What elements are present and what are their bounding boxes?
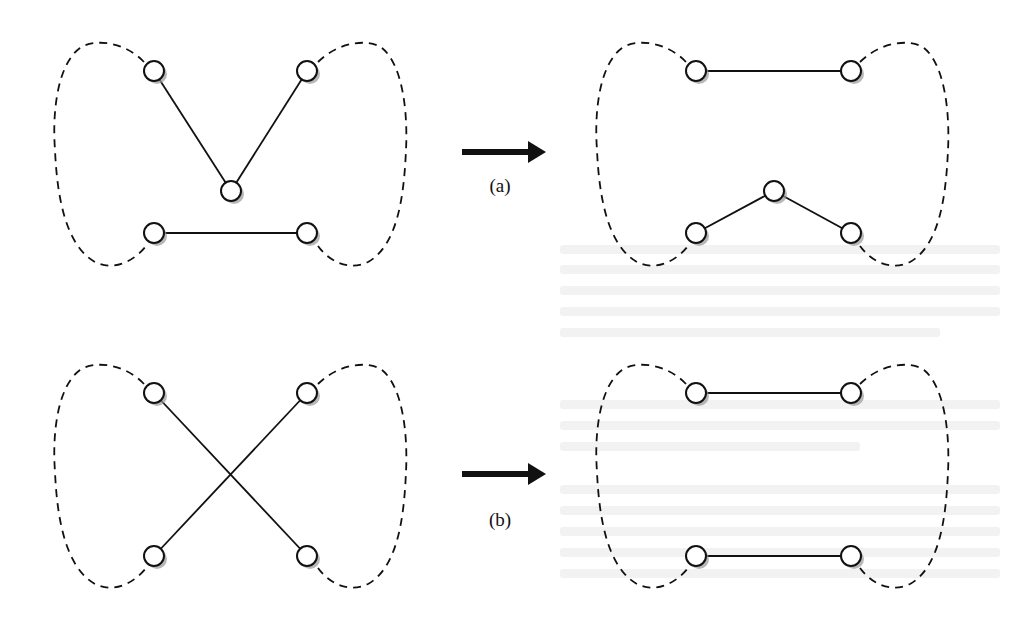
node-a-before-1: [297, 61, 317, 81]
node-a-after-3: [686, 223, 706, 243]
node-a-after-2: [764, 181, 784, 201]
graph-edges: [154, 71, 851, 556]
arrowhead-icon-a: [528, 141, 546, 163]
node-b-after-3: [841, 546, 861, 566]
node-a-before-4: [297, 223, 317, 243]
node-a-after-1: [841, 61, 861, 81]
dashed-region-a-after: [596, 43, 948, 266]
arrowhead-icon-b: [528, 463, 546, 485]
dashed-region-b-before: [54, 365, 406, 588]
graph-nodes: [144, 61, 864, 569]
node-a-before-2: [221, 181, 241, 201]
node-b-after-2: [686, 546, 706, 566]
node-a-after-0: [686, 61, 706, 81]
node-a-before-3: [144, 223, 164, 243]
panel-label-b: (b): [489, 509, 511, 531]
edge-a-before-0: [154, 71, 231, 191]
dashed-region-b-after: [596, 365, 948, 588]
node-b-before-1: [297, 383, 317, 403]
node-b-after-0: [686, 383, 706, 403]
node-b-before-3: [297, 546, 317, 566]
node-a-after-4: [841, 223, 861, 243]
node-a-before-0: [144, 61, 164, 81]
node-b-before-0: [144, 383, 164, 403]
node-b-after-1: [841, 383, 861, 403]
panel-label-a: (a): [489, 175, 510, 197]
edge-exchange-diagram: (a)(b): [0, 0, 1011, 625]
panel-labels: (a)(b): [489, 175, 511, 531]
edge-a-before-1: [231, 71, 307, 191]
edge-a-after-1: [696, 191, 774, 233]
node-b-before-2: [144, 546, 164, 566]
